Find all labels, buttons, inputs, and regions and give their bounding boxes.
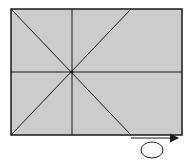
- geometry-diagram: [0, 0, 195, 165]
- center-point: [71, 71, 74, 74]
- ellipse-shape: [141, 142, 163, 158]
